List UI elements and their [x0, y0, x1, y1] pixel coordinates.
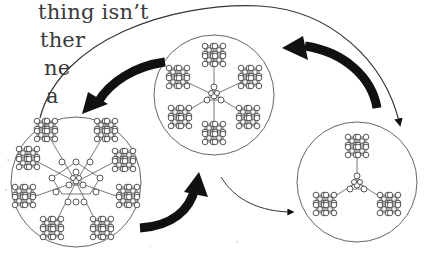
cluster-middle [154, 35, 274, 155]
thick-arrow-left-to-middle [140, 172, 208, 228]
network-diagram [0, 0, 425, 256]
thick-arrow-right-to-middle [282, 36, 377, 108]
thin-arrow-middle-to-right [221, 177, 293, 212]
thick-arrow-middle-to-left [82, 62, 165, 114]
cluster-left [11, 117, 141, 247]
cluster-right [297, 122, 417, 242]
